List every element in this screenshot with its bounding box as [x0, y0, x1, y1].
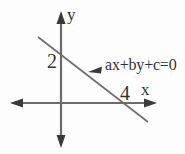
- equation-callout-arrow-icon: [88, 67, 102, 74]
- line-graph-figure: y x 2 4 ax+by+c=0: [0, 0, 185, 154]
- y-axis-top-arrow-icon: [57, 11, 66, 24]
- x-axis-right-arrow-icon: [144, 99, 157, 108]
- x-intercept-label: 4: [120, 83, 130, 103]
- y-intercept-label: 2: [47, 51, 57, 71]
- line-equation-label: ax+by+c=0: [105, 57, 176, 73]
- y-axis-label: y: [67, 6, 76, 23]
- x-axis-label: x: [141, 81, 150, 98]
- y-axis-bottom-arrow-icon: [57, 135, 66, 148]
- x-axis-left-arrow-icon: [10, 99, 23, 108]
- graph-canvas: [0, 0, 185, 154]
